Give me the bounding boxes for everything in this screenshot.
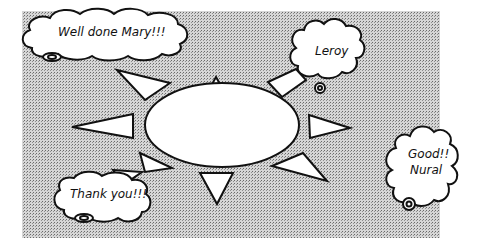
bubble-tail-nural-inner (407, 202, 412, 207)
bubble-text-leroy: Leroy (315, 44, 349, 58)
sun-center (145, 83, 299, 167)
bubble-tail-mary-inner (48, 55, 56, 59)
bubble-text-nural-line2: Nural (410, 163, 443, 177)
bubble-text-mary: Well done Mary!!! (58, 25, 166, 39)
sun-diagram: Well done Mary!!! Leroy Good!! Nural Tha… (0, 0, 498, 249)
bubble-text-thanks: Thank you!!! (70, 187, 147, 201)
bubble-tail-thanks-inner (80, 216, 88, 220)
bubble-text-nural-line1: Good!! (408, 147, 449, 161)
bubble-tail-leroy-inner (318, 86, 322, 90)
